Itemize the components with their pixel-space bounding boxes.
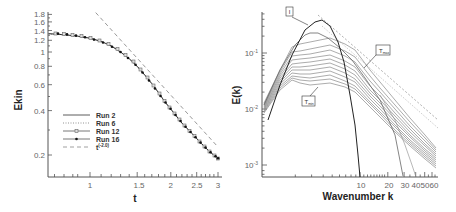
left-ytick-label: 0.2 (34, 151, 46, 160)
left-ytick-label: 1.6 (34, 18, 46, 27)
legend-label-run16: Run 16 (96, 136, 119, 143)
left-xtick-label: 1 (88, 181, 93, 190)
right-xtick-label: 60 (430, 181, 439, 190)
run12-markers (54, 32, 220, 160)
left-ytick-label: 1 (41, 48, 46, 57)
reference-slope-line-2 (322, 26, 438, 128)
legend-label-reference: t(-2.0) (96, 143, 110, 151)
left-xtick-label: 3 (216, 181, 221, 190)
annotation-tmin: Tmin (302, 87, 318, 106)
left-ytick-label: 0.8 (34, 62, 46, 71)
legend-label-run2: Run 2 (96, 112, 116, 119)
figure: 1.8 1.6 1.4 1.2 1 0.8 0.6 0.4 0.2 (0, 0, 456, 212)
left-x-axis-label: t (133, 193, 137, 204)
right-x-ticks (295, 172, 435, 177)
right-xtick-label: 20 (385, 181, 394, 190)
left-ytick-label: 1.2 (34, 36, 46, 45)
annotation-arrow (292, 17, 308, 25)
right-ytick-label: 10-3 (245, 160, 259, 170)
right-y-axis-label: E(k) (231, 86, 242, 105)
left-xtick-label: 1.5 (133, 181, 145, 190)
left-x-ticks (55, 172, 219, 177)
run2-curve (49, 34, 219, 159)
annotation-initial: I (286, 7, 308, 25)
right-ytick-label: 10-1 (245, 48, 259, 58)
left-y-axis-label: Ekin (13, 89, 24, 110)
right-xtick-label: 30 (401, 181, 410, 190)
left-chart-kinetic-energy: 1.8 1.6 1.4 1.2 1 0.8 0.6 0.4 0.2 (13, 10, 222, 204)
annotation-arrow (364, 55, 376, 68)
legend-label-run6: Run 6 (96, 120, 116, 127)
left-ytick-label: 0.4 (34, 107, 46, 116)
right-xtick-label: 10 (357, 181, 366, 190)
run16-markers (57, 32, 220, 159)
left-xtick-label: 2.5 (191, 181, 203, 190)
left-legend: Run 2 Run 6 Run 12 Run 16 t(-2.0) (63, 112, 119, 151)
left-ytick-label: 1.4 (34, 27, 46, 36)
right-x-axis-label: Wavenumber k (323, 191, 394, 202)
run6-curve (49, 34, 219, 159)
right-ytick-label: 10-2 (245, 104, 259, 114)
left-xtick-label: 2 (169, 181, 174, 190)
right-y-ticks (262, 14, 267, 174)
left-y-ticks (48, 14, 52, 155)
legend-label-run12: Run 12 (96, 128, 119, 135)
annotation-arrow (310, 87, 318, 96)
dot-marker-icon (75, 138, 78, 141)
right-chart-energy-spectrum: 10-1 10-2 10-3 10 20 30 40 (231, 7, 439, 202)
square-marker-icon (75, 130, 78, 133)
annotation-tmax: Tmax (364, 45, 390, 68)
left-ytick-label: 0.6 (34, 81, 46, 90)
